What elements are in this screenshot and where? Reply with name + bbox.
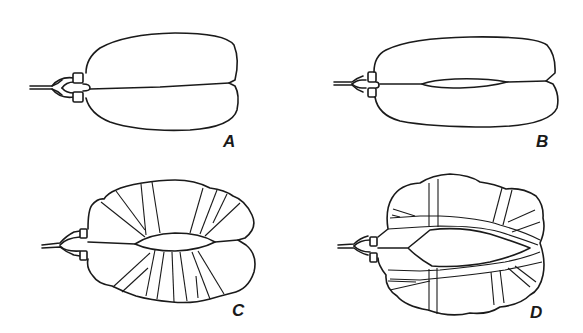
panel-c-drawing [42, 180, 255, 303]
diagram-figure [0, 0, 583, 333]
panel-d-drawing [338, 174, 544, 315]
panel-b-drawing [334, 37, 558, 127]
panel-label-d: D [530, 304, 542, 321]
panel-label-b: B [536, 133, 548, 150]
panel-label-a: A [223, 133, 235, 150]
panel-label-c: C [232, 302, 244, 319]
panel-a-drawing [30, 33, 238, 130]
